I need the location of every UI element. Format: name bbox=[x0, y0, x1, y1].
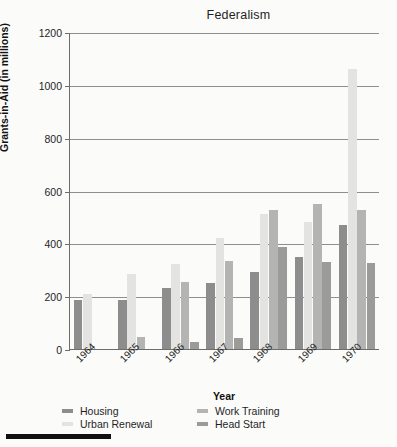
legend-swatch-icon bbox=[197, 409, 208, 413]
bar-group bbox=[335, 33, 379, 349]
bar bbox=[269, 210, 278, 349]
legend-swatch-icon bbox=[197, 422, 208, 426]
bar bbox=[295, 257, 304, 349]
chart-legend: HousingUrban RenewalWork TrainingHead St… bbox=[62, 404, 362, 430]
bar bbox=[278, 247, 287, 349]
bar bbox=[118, 300, 127, 349]
bar bbox=[171, 264, 180, 349]
bar bbox=[127, 274, 136, 349]
y-axis-tick-label: 200 bbox=[44, 291, 62, 303]
bar bbox=[357, 210, 366, 349]
bar-group bbox=[202, 33, 246, 349]
x-label-cell: 1965 bbox=[113, 352, 157, 390]
x-label-cell: 1970 bbox=[335, 352, 379, 390]
legend-column: Work TrainingHead Start bbox=[197, 404, 332, 430]
x-label-cell: 1968 bbox=[246, 352, 290, 390]
bar bbox=[260, 214, 269, 349]
bar-group bbox=[70, 33, 114, 349]
chart-title: Federalism bbox=[0, 8, 397, 22]
bar bbox=[250, 272, 259, 349]
chart-container: Federalism Grants-in-Aid (in millions) 0… bbox=[0, 0, 397, 447]
plot-area: 020040060080010001200 bbox=[69, 33, 379, 350]
legend-item: Urban Renewal bbox=[62, 417, 197, 430]
page-scan-artifact bbox=[6, 434, 111, 439]
legend-label: Head Start bbox=[215, 418, 265, 430]
y-axis-tick-label: 400 bbox=[44, 238, 62, 250]
bar bbox=[348, 69, 357, 349]
bar bbox=[313, 204, 322, 349]
y-axis-tick-label: 800 bbox=[44, 133, 62, 145]
bar-group bbox=[158, 33, 202, 349]
bar-group bbox=[247, 33, 291, 349]
bar bbox=[322, 262, 331, 349]
y-axis-tick-mark bbox=[65, 350, 70, 351]
bar bbox=[339, 225, 348, 349]
bar bbox=[234, 338, 243, 349]
legend-label: Urban Renewal bbox=[80, 418, 152, 430]
legend-swatch-icon bbox=[62, 409, 73, 413]
y-axis-tick-label: 1200 bbox=[39, 27, 62, 39]
bar-group bbox=[291, 33, 335, 349]
x-axis-title: Year bbox=[69, 390, 379, 402]
legend-column: HousingUrban Renewal bbox=[62, 404, 197, 430]
legend-swatch-icon bbox=[62, 422, 73, 426]
x-label-cell: 1964 bbox=[69, 352, 113, 390]
bar bbox=[225, 261, 234, 349]
x-label-cell: 1966 bbox=[158, 352, 202, 390]
bar bbox=[206, 283, 215, 349]
bar bbox=[74, 300, 83, 349]
bar bbox=[216, 238, 225, 349]
bar bbox=[304, 222, 313, 349]
legend-label: Work Training bbox=[215, 405, 280, 417]
legend-item: Housing bbox=[62, 404, 197, 417]
bar bbox=[83, 294, 92, 349]
bar bbox=[367, 263, 376, 349]
x-axis-tick-labels: 1964196519661967196819691970 bbox=[69, 352, 379, 390]
legend-item: Work Training bbox=[197, 404, 332, 417]
bar bbox=[181, 282, 190, 349]
bar bbox=[190, 342, 199, 349]
legend-label: Housing bbox=[80, 405, 119, 417]
bars-layer bbox=[70, 33, 379, 349]
y-axis-tick-label: 1000 bbox=[39, 80, 62, 92]
x-label-cell: 1969 bbox=[290, 352, 334, 390]
y-axis-tick-label: 600 bbox=[44, 186, 62, 198]
x-label-cell: 1967 bbox=[202, 352, 246, 390]
bar-group bbox=[114, 33, 158, 349]
bar bbox=[162, 288, 171, 349]
y-axis-title: Grants-in-Aid (in millions) bbox=[0, 23, 10, 152]
y-axis-tick-label: 0 bbox=[56, 344, 62, 356]
legend-item: Head Start bbox=[197, 417, 332, 430]
